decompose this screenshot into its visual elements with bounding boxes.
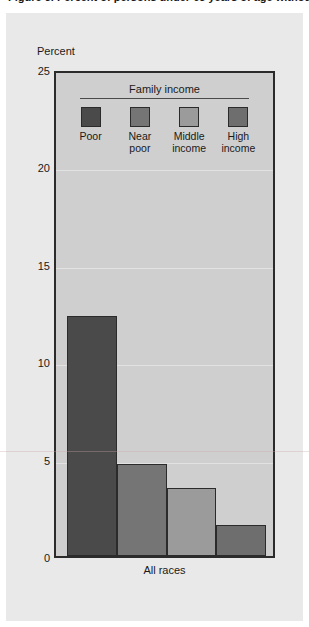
bar — [67, 316, 117, 556]
y-axis-tick-label: 20 — [10, 162, 50, 174]
bar — [167, 488, 217, 556]
x-axis-label: All races — [54, 564, 275, 576]
bars-layer — [56, 73, 273, 556]
chart-panel: Percent 0510152025 Family income PoorNea… — [6, 13, 303, 621]
y-axis-tick-label: 5 — [10, 455, 50, 467]
y-axis-tick-label: 0 — [10, 552, 50, 564]
y-axis-tick-label: 15 — [10, 260, 50, 272]
figure-title: Figure 5. Percent of persons under 65 ye… — [8, 0, 309, 3]
bar — [216, 525, 266, 556]
figure-title-strip: Figure 5. Percent of persons under 65 ye… — [0, 0, 309, 11]
bar — [117, 464, 167, 556]
y-axis-tick-label: 25 — [10, 65, 50, 77]
page-seam-line — [0, 451, 309, 452]
y-axis-tick-label: 10 — [10, 357, 50, 369]
y-axis-title: Percent — [37, 45, 75, 57]
y-axis-tick-labels: 0510152025 — [6, 71, 50, 558]
plot-area: Family income PoorNearpoorMiddleincomeHi… — [54, 71, 275, 558]
figure-container: Figure 5. Percent of persons under 65 ye… — [0, 0, 309, 627]
